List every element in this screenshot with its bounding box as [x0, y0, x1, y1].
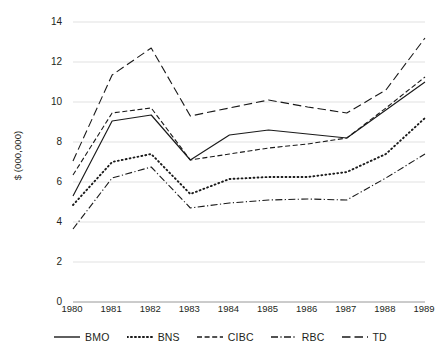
- y-tick-label: 10: [36, 96, 62, 107]
- legend-label: BMO: [85, 331, 110, 343]
- y-tick-label: 12: [36, 56, 62, 67]
- y-tick-label: 4: [36, 216, 62, 227]
- x-tick-label: 1981: [101, 303, 122, 314]
- legend-item-cibc[interactable]: CIBC: [197, 331, 254, 343]
- legend-swatch-dashdot-icon: [271, 332, 297, 342]
- x-tick-label: 1982: [140, 303, 161, 314]
- y-axis-ticks: 02468101214: [36, 0, 62, 300]
- x-tick-label: 1987: [335, 303, 356, 314]
- line-chart: $ (000,000) 02468101214 1980198119821983…: [0, 0, 441, 360]
- legend-item-bmo[interactable]: BMO: [54, 331, 110, 343]
- legend-item-td[interactable]: TD: [342, 331, 387, 343]
- series-line-rbc: [73, 154, 425, 229]
- legend-swatch-dashed-icon: [197, 332, 223, 342]
- x-tick-label: 1983: [179, 303, 200, 314]
- y-tick-label: 8: [36, 136, 62, 147]
- legend-swatch-longdash-icon: [342, 332, 368, 342]
- x-tick-label: 1989: [413, 303, 434, 314]
- x-tick-label: 1984: [218, 303, 239, 314]
- y-tick-label: 6: [36, 176, 62, 187]
- chart-legend: BMOBNSCIBCRBCTD: [0, 331, 441, 343]
- legend-label: RBC: [302, 331, 325, 343]
- y-tick-label: 2: [36, 256, 62, 267]
- y-tick-label: 14: [36, 16, 62, 27]
- x-tick-label: 1986: [296, 303, 317, 314]
- x-tick-label: 1985: [257, 303, 278, 314]
- legend-swatch-dotted-icon: [127, 332, 153, 342]
- x-tick-label: 1988: [374, 303, 395, 314]
- y-axis-title: $ (000,000): [12, 106, 23, 206]
- legend-label: TD: [373, 331, 387, 343]
- series-line-bmo: [73, 82, 425, 196]
- legend-label: BNS: [158, 331, 180, 343]
- x-tick-label: 1980: [61, 303, 82, 314]
- y-tick-label: 0: [36, 296, 62, 307]
- series-line-td: [73, 38, 425, 161]
- legend-swatch-solid-icon: [54, 332, 80, 342]
- plot-area: [72, 21, 424, 301]
- legend-item-bns[interactable]: BNS: [127, 331, 180, 343]
- legend-label: CIBC: [228, 331, 254, 343]
- legend-item-rbc[interactable]: RBC: [271, 331, 325, 343]
- series-line-bns: [73, 118, 425, 205]
